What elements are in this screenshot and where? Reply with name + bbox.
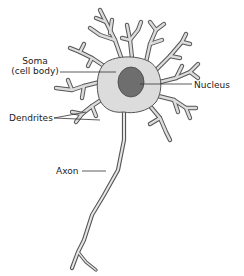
soma-label-line2: (cell body) [8, 66, 62, 76]
nucleus-label: Nucleus [194, 80, 230, 90]
dendrites-label: Dendrites [9, 113, 53, 123]
soma-label: Soma (cell body) [8, 56, 62, 76]
axon [72, 112, 124, 270]
axon-label: Axon [56, 166, 78, 176]
nucleus [118, 67, 144, 97]
neuron-diagram [0, 0, 244, 276]
soma-label-line1: Soma [8, 56, 62, 66]
